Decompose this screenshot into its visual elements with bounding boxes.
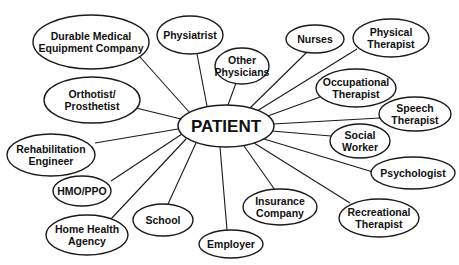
node-hmo-ppo: HMO/PPO [53, 176, 111, 206]
center-node: PATIENT [178, 105, 274, 147]
node-social-worker: SocialWorker [330, 124, 390, 158]
orthotist-prosthetist-label-line-2: Prosthetist [65, 100, 120, 112]
psychologist-label-line-1: Psychologist [380, 167, 446, 179]
occupational-therapist-label-line-2: Therapist [332, 88, 380, 100]
orthotist-prosthetist-label-line-1: Orthotist/ [68, 88, 115, 100]
home-health-agency-label-line-2: Agency [68, 235, 106, 247]
edge-patient-to-orthotist-prosthetist [136, 108, 181, 119]
insurance-company-label-line-2: Company [256, 207, 304, 219]
durable-medical-equipment-company-label-line-2: Equipment Company [38, 42, 143, 54]
edge-patient-to-hmo-ppo [111, 134, 182, 181]
recreational-therapist-label-line-2: Therapist [355, 218, 403, 230]
home-health-agency-label-line-1: Home Health [55, 223, 119, 235]
node-physical-therapist: PhysicalTherapist [353, 19, 429, 57]
other-physicians-label-line-2: Physicians [215, 66, 270, 78]
edge-patient-to-employer [220, 147, 227, 230]
edge-patient-to-physiatrist [197, 54, 207, 106]
edge-patient-to-occupational-therapist [265, 97, 320, 117]
edge-patient-to-rehabilitation-engineer [95, 129, 178, 143]
physical-therapist-label-line-1: Physical [370, 26, 413, 38]
social-worker-label-line-1: Social [345, 129, 376, 141]
edge-patient-to-social-worker [272, 131, 331, 136]
insurance-company-label-line-1: Insurance [255, 195, 305, 207]
edge-patient-to-school [168, 143, 196, 204]
node-rehabilitation-engineer: RehabilitationEngineer [7, 134, 95, 176]
occupational-therapist-label-line-1: Occupational [323, 76, 390, 88]
nurses-label-line-1: Nurses [297, 33, 333, 45]
physiatrist-label-line-1: Physiatrist [163, 29, 217, 41]
node-nurses: Nurses [286, 25, 344, 53]
node-recreational-therapist: RecreationalTherapist [339, 199, 419, 237]
edge-patient-to-other-physicians [228, 83, 236, 105]
patient-label: PATIENT [191, 117, 262, 136]
node-insurance-company: InsuranceCompany [243, 189, 317, 225]
node-psychologist: Psychologist [371, 157, 455, 189]
node-durable-medical-equipment-company: Durable MedicalEquipment Company [33, 15, 149, 69]
recreational-therapist-label-line-1: Recreational [347, 206, 410, 218]
node-speech-therapist: SpeechTherapist [379, 97, 451, 131]
speech-therapist-label-line-2: Therapist [391, 114, 439, 126]
node-employer: Employer [199, 230, 263, 258]
other-physicians-label-line-1: Other [228, 54, 256, 66]
node-orthotist-prosthetist: Orthotist/Prosthetist [44, 77, 140, 123]
node-physiatrist: Physiatrist [157, 16, 223, 54]
edge-patient-to-durable-medical-equipment-company [140, 57, 190, 113]
diagram-canvas: Durable MedicalEquipment CompanyPhysiatr… [0, 0, 459, 265]
node-other-physicians: OtherPhysicians [215, 48, 270, 84]
node-home-health-agency: Home HealthAgency [46, 215, 128, 255]
rehabilitation-engineer-label-line-2: Engineer [29, 155, 74, 167]
speech-therapist-label-line-1: Speech [396, 102, 433, 114]
node-school: School [133, 204, 193, 236]
physical-therapist-label-line-2: Therapist [367, 38, 415, 50]
employer-label-line-1: Employer [207, 238, 255, 250]
node-occupational-therapist: OccupationalTherapist [316, 69, 396, 107]
school-label-line-1: School [145, 214, 180, 226]
edge-patient-to-speech-therapist [273, 118, 380, 124]
hmo-ppo-label-line-1: HMO/PPO [57, 185, 107, 197]
rehabilitation-engineer-label-line-1: Rehabilitation [16, 143, 85, 155]
social-worker-label-line-2: Worker [342, 141, 378, 153]
durable-medical-equipment-company-label-line-1: Durable Medical [51, 30, 132, 42]
patient-care-team-diagram: Durable MedicalEquipment CompanyPhysiatr… [0, 0, 459, 265]
